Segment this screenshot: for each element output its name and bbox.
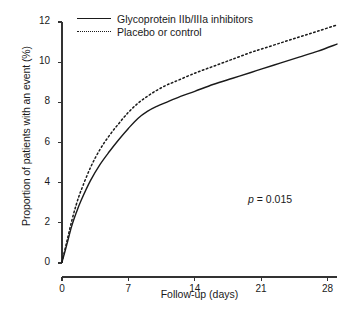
- chart-figure: Proportion of patients with an event (%)…: [0, 0, 352, 314]
- x-tick-label-7: 7: [115, 283, 141, 294]
- x-tick-label-14: 14: [182, 283, 208, 294]
- x-tick-label-28: 28: [315, 283, 341, 294]
- y-tick-label-4: 4: [28, 176, 50, 187]
- p-value-annotation: p = 0.015: [248, 193, 292, 205]
- y-tick-label-8: 8: [28, 95, 50, 106]
- y-tick-label-10: 10: [28, 55, 50, 66]
- legend-line-dotted-icon: [77, 26, 111, 37]
- chart-canvas: [0, 0, 352, 314]
- series-line-glycoprotein: [62, 44, 337, 262]
- legend-line-solid-icon: [77, 13, 111, 24]
- y-tick-label-2: 2: [28, 216, 50, 227]
- p-value-number: = 0.015: [254, 193, 292, 205]
- y-tick-label-0: 0: [28, 256, 50, 267]
- legend-item-glycoprotein: Glycoprotein IIb/IIIa inhibitors: [77, 12, 253, 25]
- legend-item-placebo: Placebo or control: [77, 25, 253, 38]
- legend-label-placebo: Placebo or control: [117, 26, 202, 38]
- series-line-placebo: [62, 25, 337, 262]
- x-tick-label-0: 0: [49, 283, 75, 294]
- legend-label-glycoprotein: Glycoprotein IIb/IIIa inhibitors: [117, 13, 253, 25]
- x-tick-label-21: 21: [248, 283, 274, 294]
- chart-legend: Glycoprotein IIb/IIIa inhibitors Placebo…: [77, 12, 253, 38]
- y-tick-label-6: 6: [28, 136, 50, 147]
- y-tick-label-12: 12: [28, 15, 50, 26]
